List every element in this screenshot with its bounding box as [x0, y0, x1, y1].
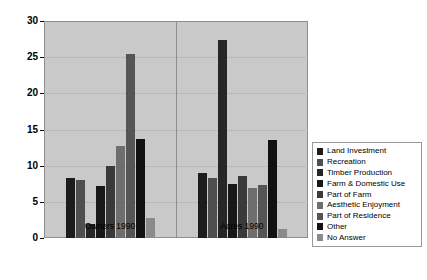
legend-item: Recreation: [317, 157, 418, 168]
legend-swatch: [317, 202, 323, 209]
bar-group: [176, 21, 308, 238]
y-axis-tick-label: 5: [32, 197, 38, 207]
group-divider: [176, 21, 177, 238]
legend-label: Land Investment: [327, 147, 386, 155]
legend-swatch: [317, 213, 323, 220]
legend-row-container: Land InvestmentRecreationTimber Producti…: [317, 146, 418, 243]
chart-legend: Land InvestmentRecreationTimber Producti…: [312, 142, 422, 247]
bar: [146, 218, 155, 238]
legend-label: Recreation: [327, 158, 366, 166]
legend-item: Part of Residence: [317, 211, 418, 222]
bar: [198, 173, 207, 238]
y-axis-tick-label: 15: [27, 125, 38, 135]
legend-item: Land Investment: [317, 146, 418, 157]
legend-label: Farm & Domestic Use: [327, 180, 405, 188]
legend-label: Part of Farm: [327, 191, 371, 199]
legend-item: Farm & Domestic Use: [317, 178, 418, 189]
y-axis-tick-label: 30: [27, 16, 38, 26]
legend-label: Part of Residence: [327, 212, 391, 220]
plot-area: 051015202530: [44, 21, 308, 238]
y-axis-tick-mark: [40, 238, 44, 239]
y-axis-tick-label: 25: [27, 52, 38, 62]
legend-item: Aesthetic Enjoyment: [317, 200, 418, 211]
legend-swatch: [317, 169, 323, 176]
legend-item: Other: [317, 222, 418, 233]
bar: [218, 40, 227, 238]
legend-item: Timber Production: [317, 168, 418, 179]
bar: [278, 229, 287, 238]
bar-group: [44, 21, 176, 238]
bar: [126, 54, 135, 238]
bar-chart-figure: 051015202530 Owners 1990Acres 1990 Land …: [0, 0, 427, 280]
legend-swatch: [317, 223, 323, 230]
legend-label: Other: [327, 223, 347, 231]
legend-swatch: [317, 191, 323, 198]
y-axis-tick-label: 20: [27, 88, 38, 98]
legend-item: Part of Farm: [317, 189, 418, 200]
y-axis-tick-label: 0: [32, 233, 38, 243]
legend-label: Aesthetic Enjoyment: [327, 201, 400, 209]
bar: [268, 140, 277, 238]
y-axis-tick-label: 10: [27, 161, 38, 171]
legend-swatch: [317, 159, 323, 166]
bar: [66, 178, 75, 238]
legend-item: No Answer: [317, 232, 418, 243]
legend-swatch: [317, 180, 323, 187]
legend-swatch: [317, 148, 323, 155]
legend-label: No Answer: [327, 234, 366, 242]
legend-label: Timber Production: [327, 169, 392, 177]
x-axis-tick-label: Owners 1990: [85, 221, 136, 231]
bar: [136, 139, 145, 238]
legend-swatch: [317, 234, 323, 241]
bar: [208, 178, 217, 238]
bar: [76, 180, 85, 238]
x-axis-tick-label: Acres 1990: [221, 221, 264, 231]
